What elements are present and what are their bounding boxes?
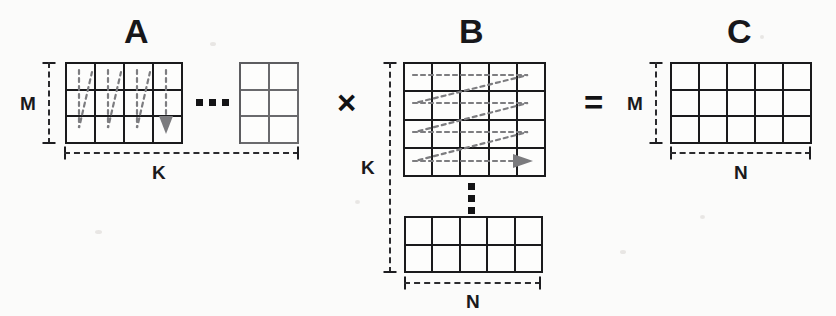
matrix-cell [406,246,433,274]
ellipsis-dot [468,207,475,214]
matrix-a-tail-block [239,62,299,144]
matrix-cell [154,64,183,91]
matrix-cell [756,117,784,144]
matrix-c-label: C [727,14,752,48]
matrix-cell [433,64,461,92]
matrix-a-label: A [124,14,149,48]
ellipsis-dot [209,99,216,106]
matrix-cell [461,149,489,177]
matrix-cell [728,64,756,91]
matrix-b-tail-block [404,216,543,273]
matrix-cell [433,92,461,120]
ellipsis-dot [196,99,203,106]
matrix-cell [490,121,518,149]
matrix-cell [518,149,546,177]
matrix-cell [154,91,183,118]
matrix-cell [461,218,488,246]
matrix-cell [405,149,433,177]
paper-speck [355,200,360,204]
equals-operator: = [584,86,603,119]
paper-speck [210,42,216,46]
ellipsis-dot [468,195,475,202]
matrix-cell [700,91,728,118]
matrix-cell [518,64,546,92]
matrix-b-row-dimension-bracket [382,62,398,273]
matrix-c-row-dimension-label: M [627,94,643,113]
matrix-cell [728,91,756,118]
matrix-cell [700,64,728,91]
matrix-cell [516,218,543,246]
paper-speck [95,230,102,234]
matrix-cell [461,121,489,149]
matrix-cell [756,91,784,118]
matrix-cell [784,64,812,91]
matrix-c-main-block [670,62,812,144]
matrix-cell [756,64,784,91]
matrix-cell [461,246,488,274]
matrix-a-col-dimension-bracket [64,145,299,161]
matrix-a-row-dimension-bracket [41,62,57,144]
matrix-cell [433,121,461,149]
matrix-cell [461,64,489,92]
matrix-a-row-dimension-label: M [20,94,36,113]
matrix-cell [270,117,299,144]
matrix-cell [241,91,270,118]
matrix-cell [154,117,183,144]
matrix-cell [405,92,433,120]
matrix-cell [241,64,270,91]
matrix-cell [672,117,700,144]
matrix-cell [728,117,756,144]
matrix-b-continuation-ellipsis [468,183,475,214]
matrix-a-col-dimension-label: K [152,163,166,182]
matrix-cell [516,246,543,274]
matrix-cell [488,246,515,274]
paper-speck [700,215,705,219]
matrix-cell [125,91,154,118]
ellipsis-dot [468,183,475,190]
matrix-b-col-dimension-label: N [466,292,480,311]
matrix-cell [67,91,96,118]
matrix-cell [241,117,270,144]
matrix-multiplication-diagram: A M K × B [0,0,836,316]
matrix-a-main-block [65,62,183,144]
paper-speck [760,35,764,39]
matrix-b-main-block [403,62,546,177]
matrix-cell [784,117,812,144]
matrix-b-col-dimension-bracket [404,275,541,291]
matrix-cell [406,218,433,246]
matrix-cell [96,91,125,118]
matrix-cell [700,117,728,144]
matrix-cell [67,64,96,91]
matrix-cell [490,149,518,177]
matrix-cell [67,117,96,144]
matrix-cell [433,218,460,246]
matrix-cell [672,91,700,118]
paper-speck [620,250,626,254]
matrix-a-continuation-ellipsis [196,99,229,106]
matrix-cell [96,117,125,144]
matrix-cell [488,218,515,246]
matrix-c-col-dimension-bracket [670,145,811,161]
matrix-c-row-dimension-bracket [648,62,664,144]
multiply-operator: × [337,86,356,119]
matrix-cell [96,64,125,91]
matrix-cell [433,246,460,274]
matrix-cell [518,121,546,149]
matrix-cell [490,92,518,120]
matrix-cell [270,64,299,91]
matrix-cell [672,64,700,91]
matrix-cell [405,121,433,149]
matrix-cell [125,64,154,91]
matrix-cell [433,149,461,177]
matrix-cell [490,64,518,92]
matrix-b-row-dimension-label: K [361,158,375,177]
matrix-c-col-dimension-label: N [734,163,748,182]
matrix-cell [518,92,546,120]
matrix-cell [270,91,299,118]
matrix-cell [461,92,489,120]
matrix-cell [784,91,812,118]
matrix-cell [125,117,154,144]
ellipsis-dot [222,99,229,106]
matrix-b-label: B [459,14,484,48]
matrix-cell [405,64,433,92]
